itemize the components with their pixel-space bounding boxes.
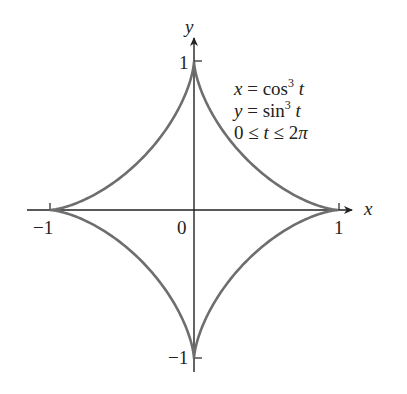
x-axis-label: x — [364, 199, 372, 218]
tick-label-x-neg1: −1 — [33, 218, 53, 237]
equation-x: x = cos3 t — [234, 79, 304, 98]
tick-label-y-1: 1 — [179, 53, 189, 72]
astroid-plot — [0, 0, 407, 394]
tick-label-y-neg1: −1 — [168, 348, 188, 367]
tick-label-x-1: 1 — [334, 218, 344, 237]
y-axis-label: y — [185, 17, 193, 36]
parameter-range: 0 ≤ t ≤ 2π — [234, 123, 308, 142]
equation-y: y = sin3 t — [234, 101, 301, 120]
tick-label-origin: 0 — [177, 218, 187, 237]
